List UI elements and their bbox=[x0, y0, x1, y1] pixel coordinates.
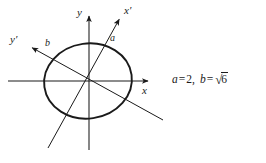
parameter-equation: a=2,b=√6 bbox=[172, 72, 228, 88]
equation-separator: , bbox=[192, 73, 200, 85]
radicand-value: 6 bbox=[221, 72, 228, 86]
square-root-expression: √6 bbox=[214, 72, 228, 88]
y-prime-axis-label: y′ bbox=[10, 34, 17, 45]
x-prime-axis-label: x′ bbox=[124, 5, 131, 16]
equation-a-equals: = bbox=[178, 73, 187, 85]
semi-major-marker-label: a bbox=[110, 33, 115, 43]
equation-b-symbol: b bbox=[200, 73, 206, 85]
equation-a-symbol: a bbox=[172, 73, 178, 85]
equation-b-equals: = bbox=[206, 73, 215, 85]
x-prime-axis-line bbox=[48, 19, 119, 148]
y-axis-label: y bbox=[77, 7, 82, 18]
x-axis-label: x bbox=[142, 85, 147, 96]
semi-minor-marker-label: b bbox=[45, 38, 50, 48]
figure-container: x y x′ y′ a b a=2,b=√6 bbox=[0, 0, 266, 163]
